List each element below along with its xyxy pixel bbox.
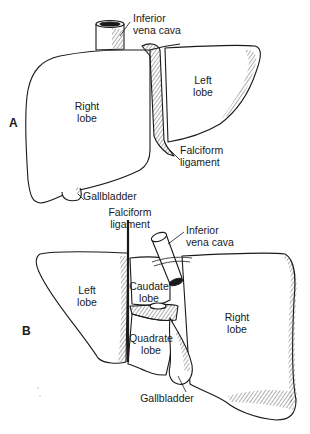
label-b-quadrate-lobe: Quadrate lobe bbox=[128, 332, 174, 356]
label-a-right-lobe: Right lobe bbox=[70, 100, 104, 124]
label-b-caudate-lobe: Caudate lobe bbox=[128, 280, 170, 304]
label-a-falciform: Falciform ligament bbox=[180, 144, 223, 168]
scan-specks bbox=[37, 387, 41, 397]
panel-letter-a: A bbox=[9, 116, 18, 130]
label-a-left-lobe: Left lobe bbox=[186, 74, 220, 98]
label-b-left-lobe: Left lobe bbox=[72, 284, 102, 308]
label-b-ivc: Inferior vena cava bbox=[186, 224, 234, 248]
panel-a-drawing bbox=[26, 21, 261, 204]
ivc-a-shape bbox=[96, 21, 124, 51]
right-lobe-a-shape bbox=[26, 50, 150, 203]
label-b-falciform: Falciform ligament bbox=[104, 206, 156, 230]
label-b-right-lobe: Right lobe bbox=[220, 311, 254, 335]
label-a-gallbladder: Gallbladder bbox=[83, 190, 137, 202]
label-a-ivc: Inferior vena cava bbox=[133, 12, 181, 36]
label-b-gallbladder: Gallbladder bbox=[136, 392, 198, 404]
panel-b-drawing bbox=[36, 220, 298, 420]
panel-letter-b: B bbox=[22, 324, 31, 338]
